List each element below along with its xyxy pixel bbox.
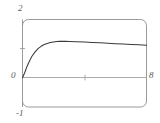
y-axis-max-label: 2 <box>18 4 23 13</box>
x-axis-max-label: 8 <box>149 71 154 80</box>
plot-canvas <box>0 0 160 123</box>
data-curve <box>23 41 147 77</box>
y-axis-min-label: -1 <box>16 109 24 118</box>
y-axis-zero-label: 0 <box>11 71 16 80</box>
plot-figure: 2 0 -1 8 <box>0 0 160 123</box>
plot-frame <box>23 20 147 108</box>
